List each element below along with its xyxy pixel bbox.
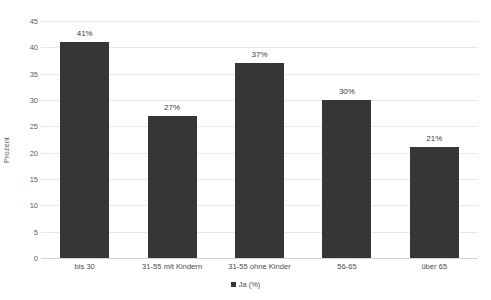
bar[interactable] [148,116,197,258]
y-axis-ticks: 051015202530354045 [16,21,38,258]
bar[interactable] [235,63,284,258]
y-axis-tick-label: 35 [30,69,38,78]
bar-value-label: 27% [164,103,180,112]
bar-value-label: 37% [251,50,267,59]
y-axis-tick-label: 0 [34,254,38,263]
x-axis-category-label: bis 30 [75,262,95,271]
x-axis-category-label: über 65 [421,262,447,271]
bar-chart: Prozent 051015202530354045 41%27%37%30%2… [0,0,491,300]
y-axis-tick-label: 25 [30,122,38,131]
bar[interactable] [60,42,109,258]
bar-value-label: 30% [339,87,355,96]
chart-legend: Ja (%) [0,280,491,289]
x-axis-category-label: 56-65 [337,262,356,271]
y-axis-tick-label: 45 [30,17,38,26]
bar-value-label: 21% [426,134,442,143]
bar[interactable] [410,147,459,258]
gridline [41,21,478,22]
x-axis-category-label: 31-55 ohne Kinder [228,262,291,271]
legend-item-ja[interactable]: Ja (%) [231,280,261,289]
y-axis-tick-label: 10 [30,201,38,210]
bar-value-label: 41% [77,29,93,38]
gridline [41,258,478,259]
y-axis-tick-label: 20 [30,148,38,157]
y-axis-tick-label: 30 [30,96,38,105]
y-axis-tick-label: 40 [30,43,38,52]
y-axis-tick-label: 15 [30,175,38,184]
bar[interactable] [322,100,371,258]
legend-item-label: Ja (%) [239,280,261,289]
y-axis-tick-label: 5 [34,227,38,236]
plot-area: 41%27%37%30%21% [41,21,478,258]
x-axis-category-label: 31-55 mit Kindern [142,262,202,271]
square-marker-icon [231,282,236,287]
y-axis-title: Prozent [2,120,11,180]
